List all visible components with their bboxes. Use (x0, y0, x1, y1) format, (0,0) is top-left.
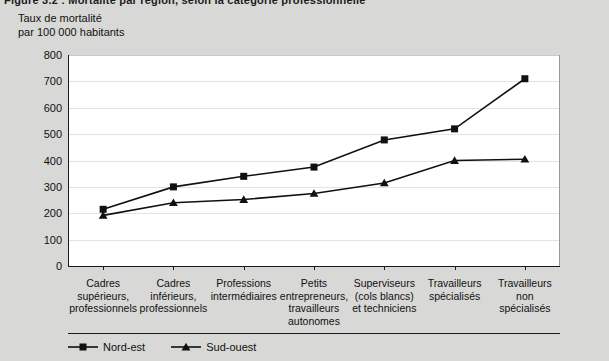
y-tick-label: 800 (16, 50, 62, 61)
x-axis-tick-labels: Cadres supérieurs, professionnelsCadres … (68, 277, 560, 333)
y-axis-tick-labels: 8007006005004003002001000 (14, 0, 62, 361)
gridline (68, 187, 559, 188)
y-tick-label: 400 (16, 156, 62, 167)
gridline (68, 240, 559, 241)
y-axis-line (68, 55, 69, 267)
square-marker (68, 341, 98, 353)
x-tick-mark (173, 266, 174, 270)
gridline (68, 108, 559, 109)
x-tick-mark (244, 266, 245, 270)
legend-label: Sud-ouest (206, 342, 256, 353)
gridline (68, 213, 559, 214)
square-marker (80, 344, 87, 351)
y-tick-label: 600 (16, 103, 62, 114)
gridline (68, 55, 559, 56)
chart-legend: Nord-estSud-ouest (68, 339, 256, 355)
chart-figure: Figure 3.2 : Mortalité par région, selon… (0, 0, 609, 361)
y-tick-label: 200 (16, 208, 62, 219)
y-tick-label: 500 (16, 129, 62, 140)
gridline (68, 81, 559, 82)
legend-divider (68, 333, 560, 334)
x-tick-mark (455, 266, 456, 270)
x-tick-label: Cadres supérieurs, professionnels (68, 277, 138, 315)
x-tick-label: Professions intermédiaires (209, 277, 279, 302)
x-tick-label: Superviseurs (cols blancs) et technicien… (349, 277, 419, 315)
x-tick-label: Travailleurs non spécialisés (490, 277, 560, 315)
gridline (68, 134, 559, 135)
x-tick-label: Travailleurs spécialisés (419, 277, 489, 302)
plot-area (68, 55, 560, 266)
legend-label: Nord-est (103, 342, 145, 353)
x-tick-mark (103, 266, 104, 270)
cut-off-header-text: Figure 3.2 : Mortalité par région, selon… (0, 0, 609, 9)
legend-item: Sud-ouest (171, 341, 256, 353)
legend-item: Nord-est (68, 341, 145, 353)
x-tick-label: Petits entrepreneurs, travailleurs auton… (279, 277, 349, 327)
x-tick-mark (314, 266, 315, 270)
y-tick-label: 300 (16, 182, 62, 193)
x-tick-mark (525, 266, 526, 270)
x-tick-mark (384, 266, 385, 270)
y-tick-label: 100 (16, 235, 62, 246)
y-tick-label: 700 (16, 76, 62, 87)
gridline (68, 161, 559, 162)
x-tick-label: Cadres inférieurs, professionnels (138, 277, 208, 315)
y-tick-label: 0 (16, 261, 62, 272)
triangle-marker (171, 341, 201, 353)
